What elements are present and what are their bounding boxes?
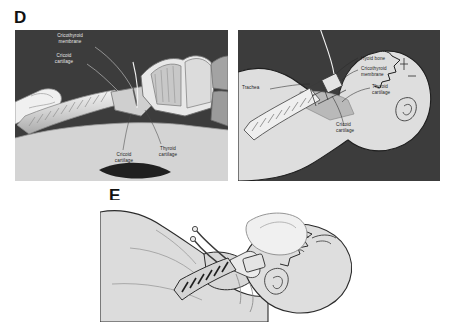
medical-illustration-figure: D (0, 0, 452, 325)
sagittal-larynx-drawing (15, 30, 228, 181)
tubing-tip-upper (192, 226, 197, 231)
panel-e-supine-patient-view (100, 200, 375, 322)
epiglottis-region (185, 59, 211, 108)
supine-patient-drawing (100, 200, 375, 322)
lateral-neck-drawing (238, 30, 440, 181)
ear-outline (265, 268, 289, 294)
panel-letter-d: D (14, 9, 26, 26)
panel-d-left-sagittal-view (15, 30, 228, 181)
posterior-tissue-mass (211, 91, 228, 126)
tubing-tip-lower (190, 236, 195, 241)
panel-d-right-lateral-view (238, 30, 440, 181)
